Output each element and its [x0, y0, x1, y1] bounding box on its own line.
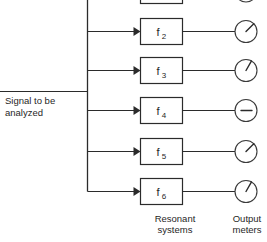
caption-resonant-systems-line1: Resonant	[155, 213, 196, 224]
filter-box-f4-subscript: 4	[162, 111, 167, 120]
channel-f1	[88, 0, 258, 4]
filter-box-f2-subscript: 2	[162, 32, 167, 41]
arrowhead-f3	[134, 66, 141, 75]
input-label-line1: Signal to be	[5, 95, 55, 106]
filter-box-f5-subscript: 5	[162, 152, 167, 161]
filter-box-f3-subscript: 3	[162, 71, 167, 80]
arrowhead-f4	[134, 106, 141, 115]
channel-f5: f 5	[88, 139, 258, 165]
filter-box-f6-subscript: 6	[162, 192, 167, 201]
channel-f2: f 2	[88, 19, 258, 45]
channel-f4: f 4	[88, 98, 258, 124]
caption-output-meters-line2: meters	[232, 224, 261, 235]
output-meter-1	[235, 0, 257, 2]
arrowhead-f2	[134, 27, 141, 36]
channel-f3: f 3	[88, 58, 258, 84]
input-label-line2: analyzed	[5, 107, 43, 118]
caption-output-meters-line1: Output	[233, 213, 262, 224]
arrowhead-f6	[134, 187, 141, 196]
spectrum-analyzer-diagram: f 2 f 3 f 4	[0, 0, 267, 242]
filter-box-f1	[141, 0, 183, 4]
channel-f6: f 6	[88, 179, 258, 205]
caption-resonant-systems-line2: systems	[158, 224, 193, 235]
arrowhead-f5	[134, 147, 141, 156]
